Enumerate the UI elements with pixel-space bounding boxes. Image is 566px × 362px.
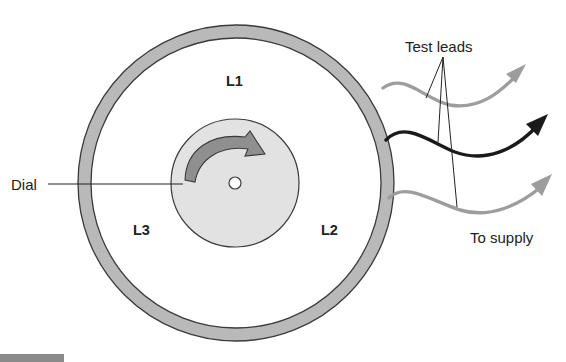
label-l3: L3 [133,222,150,238]
corner-bar [0,354,64,362]
label-to-supply: To supply [470,229,534,246]
label-l2: L2 [321,222,338,238]
lead-top [383,74,518,106]
label-dial: Dial [11,176,37,193]
lead-bottom [389,186,542,213]
dial-meter-diagram: L1 L3 L2 Dial Test leads To supply [0,0,566,362]
lead-top-arrowhead-icon [506,64,526,83]
label-l1: L1 [226,73,243,89]
dial-center-hole [229,177,241,189]
label-test-leads: Test leads [405,38,473,55]
test-leads-leader-lines [426,57,457,207]
test-leads [383,64,552,213]
lead-middle [386,126,537,156]
